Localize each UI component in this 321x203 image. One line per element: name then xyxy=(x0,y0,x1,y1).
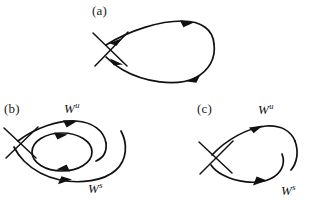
panel-label-a: (a) xyxy=(92,4,107,17)
panel-b-stable-outer xyxy=(14,131,125,182)
panel-a-loop-right xyxy=(195,44,214,78)
panel-c-stable-branch xyxy=(211,154,283,182)
panel-c-unstable-tail xyxy=(291,141,297,170)
w-letter: W xyxy=(64,101,75,116)
figure-root: .curve { fill: none; stroke: #111111; st… xyxy=(0,0,321,203)
panel-b-unstable-spiral-tail xyxy=(96,143,106,161)
panel-b-unstable-manifold-label: Wu xyxy=(64,102,80,115)
unstable-superscript: u xyxy=(269,101,273,111)
panel-a-stable-branch xyxy=(106,57,195,83)
panel-c-saddle-point xyxy=(199,141,233,174)
unstable-superscript: u xyxy=(75,100,79,110)
panel-c-stable-manifold-label: Ws xyxy=(281,184,296,197)
stable-superscript: s xyxy=(292,182,295,192)
panel-c-diagram xyxy=(199,126,297,186)
panel-b-arrow-unstable xyxy=(63,120,77,127)
panel-b-unstable-outer xyxy=(18,121,106,143)
panel-label-c: (c) xyxy=(197,102,212,115)
stable-superscript: s xyxy=(99,180,102,190)
panel-label-b: (b) xyxy=(4,102,20,115)
w-letter: W xyxy=(88,181,99,196)
panel-a-diagram xyxy=(93,20,214,82)
w-letter: W xyxy=(258,102,269,117)
panel-c-arrow-stable xyxy=(253,177,267,186)
panel-b-periodic-orbit xyxy=(32,133,92,171)
panel-c-unstable-manifold-label: Wu xyxy=(258,103,274,116)
panel-c-arrow-unstable xyxy=(249,126,263,134)
panel-a-arrow-lower-right xyxy=(187,76,200,83)
panel-b-diagram xyxy=(4,120,125,184)
panel-a-unstable-branch xyxy=(106,21,214,45)
panel-b-arrow-stable xyxy=(58,176,72,184)
panel-b-stable-manifold-label: Ws xyxy=(88,182,103,195)
w-letter: W xyxy=(281,183,292,198)
